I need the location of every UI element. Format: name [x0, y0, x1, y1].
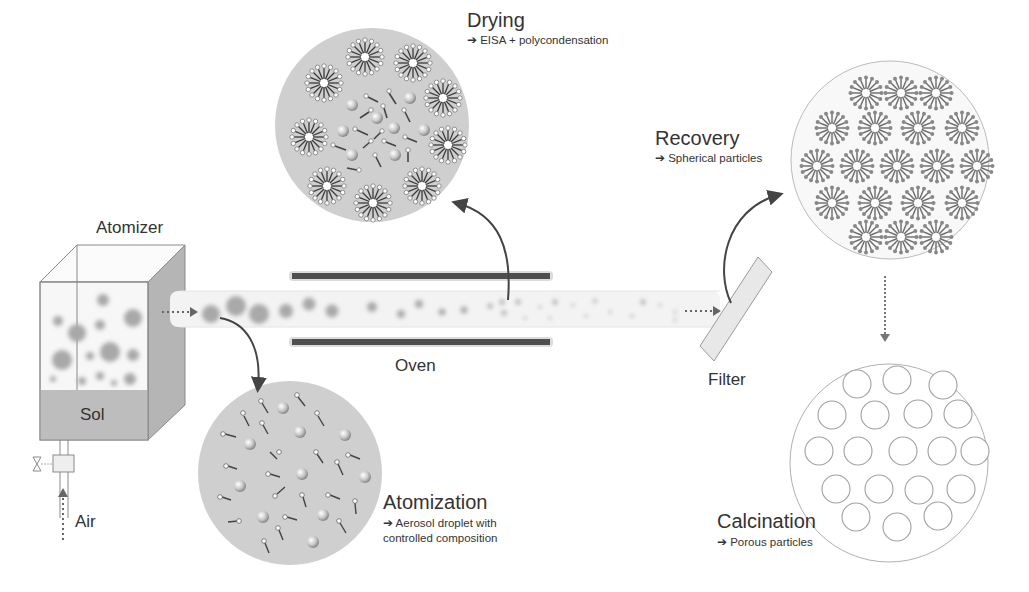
atomization-description-2: controlled composition [383, 531, 497, 545]
atomizer [33, 245, 185, 540]
arrow-right-icon: ➔ [655, 152, 665, 164]
arrow-right-icon: ➔ [383, 517, 393, 529]
drying-particle-disk [275, 28, 469, 222]
arrow-to-calcination [880, 276, 890, 342]
arrow-to-drying [457, 203, 509, 300]
oven-label: Oven [395, 356, 436, 376]
arrow-to-atomization [220, 318, 259, 387]
atomization-description-1: ➔ Aerosol droplet with [383, 516, 497, 530]
recovery-title: Recovery [655, 127, 739, 150]
arrow-right-icon: ➔ [467, 34, 477, 46]
recovery-particle-disk [791, 61, 995, 259]
drying-description: ➔ EISA + polycondensation [467, 33, 608, 47]
drying-title: Drying [467, 9, 525, 32]
sol-label: Sol [80, 405, 105, 425]
arrow-right-icon: ➔ [717, 536, 727, 548]
atomization-title: Atomization [383, 491, 488, 514]
air-label: Air [75, 512, 96, 532]
calcination-porous-disk [790, 364, 989, 562]
atomizer-label: Atomizer [96, 218, 163, 238]
atomization-droplet-disk [198, 381, 382, 565]
diagram-canvas [0, 0, 1029, 592]
calcination-title: Calcination [717, 510, 816, 533]
calcination-description: ➔ Porous particles [717, 535, 813, 549]
filter-label: Filter [708, 370, 746, 390]
recovery-description: ➔ Spherical particles [655, 151, 762, 165]
aerosol-process-diagram: Atomizer Sol Air Oven Filter Drying ➔ EI… [0, 0, 1029, 592]
